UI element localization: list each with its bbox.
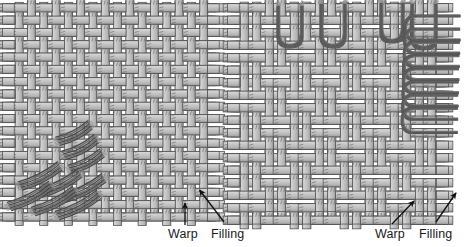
filling-tape-selvedge: [227, 179, 239, 187]
filling-tape-selvedge: [3, 188, 15, 196]
filling-tape-selvedge: [3, 114, 15, 122]
filling-tape-selvedge: [3, 139, 15, 147]
filling-tape-selvedge: [208, 151, 220, 159]
filling-tape-selvedge: [437, 4, 449, 12]
filling-tape-selvedge: [3, 213, 15, 221]
filling-tape-selvedge: [227, 16, 239, 24]
warp-tape: [27, 0, 35, 16]
warp-tape: [265, 0, 273, 16]
filling-tape-selvedge: [3, 164, 15, 172]
filling-tape-selvedge: [227, 204, 239, 212]
warp-tape: [52, 0, 60, 16]
filling-tape-selvedge: [208, 188, 220, 196]
filling-tape-selvedge: [3, 65, 15, 73]
filling-tape-selvedge: [227, 4, 239, 12]
warp-tape: [175, 0, 183, 16]
filling-tape-selvedge: [208, 65, 220, 73]
filling-tape-selvedge: [3, 53, 15, 61]
filling-tape-selvedge: [208, 4, 220, 12]
filling-tape-selvedge: [227, 91, 239, 99]
filling-tape-selvedge: [227, 216, 239, 224]
filling-tape-selvedge: [227, 166, 239, 174]
warp-tape: [365, 0, 373, 16]
warp-tape: [415, 0, 423, 16]
filling-tape-selvedge: [208, 114, 220, 122]
filling-tape-selvedge: [227, 129, 239, 137]
filling-tape-selvedge: [208, 90, 220, 98]
filling-tape-selvedge: [227, 104, 239, 112]
filling-tape-selvedge: [3, 28, 15, 36]
filling-tape-selvedge: [3, 90, 15, 98]
filling-tape-selvedge: [208, 28, 220, 36]
warp-tape: [328, 0, 336, 16]
filling-label-right: Filling: [419, 228, 452, 241]
filling-label-left: Filling: [211, 228, 244, 241]
filling-tape-selvedge: [208, 176, 220, 184]
filling-tape-selvedge: [227, 154, 239, 162]
filling-tape-selvedge: [227, 54, 239, 62]
filling-tape-selvedge: [3, 78, 15, 86]
filling-tape-selvedge: [227, 29, 239, 37]
warp-label-right: Warp: [375, 228, 405, 241]
warp-label-left: Warp: [168, 228, 198, 241]
filling-tape-selvedge: [437, 141, 449, 149]
filling-tape-selvedge: [3, 16, 15, 24]
filling-tape-selvedge: [3, 41, 15, 49]
filling-tape-selvedge: [208, 127, 220, 135]
filling-tape-selvedge: [227, 79, 239, 87]
filling-tape-selvedge: [437, 191, 449, 199]
filling-tape-selvedge: [227, 66, 239, 74]
warp-tape: [150, 0, 158, 16]
filling-tape-selvedge: [437, 179, 449, 187]
woven-fabric-figure: [0, 0, 464, 247]
warp-tape: [101, 0, 109, 16]
filling-tape-selvedge: [3, 151, 15, 159]
filling-tape-selvedge: [208, 164, 220, 172]
filling-tape-selvedge: [208, 16, 220, 24]
filling-tape-selvedge: [208, 139, 220, 147]
warp-tape: [126, 0, 134, 16]
filling-tape-selvedge: [3, 4, 15, 12]
filling-tape-selvedge: [208, 53, 220, 61]
warp-tape: [200, 0, 208, 16]
warp-tape: [77, 0, 85, 16]
filling-tape-selvedge: [3, 127, 15, 135]
filling-tape-selvedge: [3, 102, 15, 110]
filling-tape-selvedge: [208, 78, 220, 86]
filling-tape-selvedge: [227, 41, 239, 49]
filling-tape-selvedge: [437, 216, 449, 224]
filling-tape-selvedge: [437, 154, 449, 162]
filling-tape-selvedge: [227, 116, 239, 124]
filling-tape-selvedge: [208, 41, 220, 49]
filling-tape-selvedge: [437, 166, 449, 174]
filling-tape-selvedge: [227, 191, 239, 199]
filling-tape-selvedge: [227, 141, 239, 149]
filling-tape-selvedge: [208, 102, 220, 110]
filling-tape-selvedge: [3, 176, 15, 184]
